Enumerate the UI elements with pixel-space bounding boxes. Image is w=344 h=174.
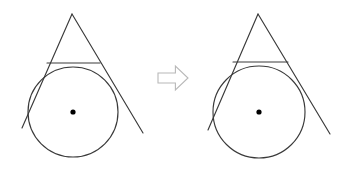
transformation-arrow xyxy=(158,66,188,90)
circle-center-dot xyxy=(70,109,75,114)
circle-center-dot xyxy=(256,109,261,114)
geometry-figure-svg xyxy=(0,0,344,174)
right-tangent-line xyxy=(258,14,330,134)
right-arrow-icon xyxy=(158,66,188,90)
before-diagram xyxy=(22,14,143,157)
left-tangent-line xyxy=(208,14,258,130)
figure-canvas xyxy=(0,0,344,174)
after-diagram xyxy=(208,14,330,158)
right-tangent-line xyxy=(72,14,143,133)
left-tangent-line xyxy=(22,14,72,128)
